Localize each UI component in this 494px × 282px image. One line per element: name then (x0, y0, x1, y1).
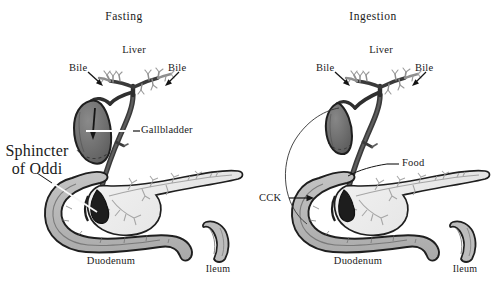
label-gallbladder: Gallbladder (141, 124, 193, 135)
label-bile-left-fasting: Bile (69, 62, 87, 73)
label-bile-right-ingestion: Bile (415, 62, 433, 73)
label-liver-fasting: Liver (122, 44, 146, 55)
anatomical-figure: Fasting Liver Bile Bile Gallbladder Sphi… (0, 0, 494, 282)
label-duodenum-ingestion: Duodenum (334, 255, 382, 266)
panel-title-fasting: Fasting (105, 10, 142, 22)
label-cck: CCK (259, 192, 281, 203)
gallbladder-contracted (326, 103, 352, 154)
ileum (450, 221, 476, 262)
label-ileum-ingestion: Ileum (453, 264, 477, 275)
ingestion-illustration (247, 0, 494, 282)
panel-ingestion: Ingestion Liver Bile Bile CCK Food Duode… (247, 0, 494, 282)
label-food: Food (402, 157, 424, 168)
label-liver-ingestion: Liver (369, 44, 393, 55)
label-bile-right-fasting: Bile (168, 62, 186, 73)
label-sphincter-of-oddi: Sphincter of Oddi (5, 142, 68, 178)
sphincter-line-2: of Oddi (12, 160, 63, 177)
ileum (203, 221, 229, 262)
sphincter-line-1: Sphincter (5, 142, 68, 159)
fasting-illustration (0, 0, 247, 282)
label-ileum-fasting: Ileum (206, 264, 230, 275)
label-duodenum-fasting: Duodenum (87, 255, 135, 266)
label-bile-left-ingestion: Bile (316, 62, 334, 73)
panel-title-ingestion: Ingestion (349, 10, 396, 22)
panel-fasting: Fasting Liver Bile Bile Gallbladder Sphi… (0, 0, 247, 282)
